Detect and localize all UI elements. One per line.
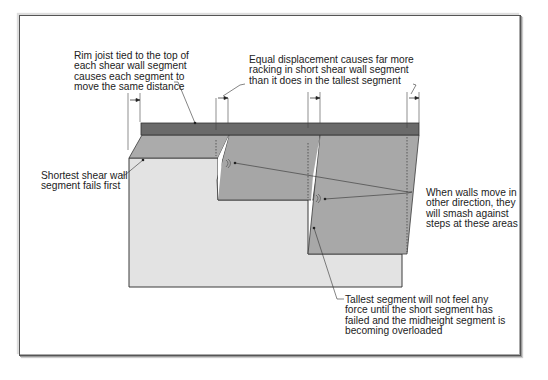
annotation-shortest-fails: Shortest shear wall segment fails first: [41, 171, 128, 192]
annotation-smash-steps: When walls move in other direction, they…: [426, 188, 518, 230]
displacement-arrow-icon: [130, 97, 419, 102]
tall-segment-face: [308, 135, 419, 254]
rim-joist: [141, 123, 419, 135]
mid-segment-face: [217, 135, 320, 200]
annotation-tallest-segment: Tallest segment will not feel any force …: [345, 295, 505, 337]
short-segment-top-face: [129, 135, 229, 158]
annotation-equal-displacement: Equal displacement causes far more racki…: [249, 55, 414, 86]
annotation-rim-joist: Rim joist tied to the top of each shear …: [74, 51, 189, 93]
leader-equal-displacement: [223, 84, 245, 96]
